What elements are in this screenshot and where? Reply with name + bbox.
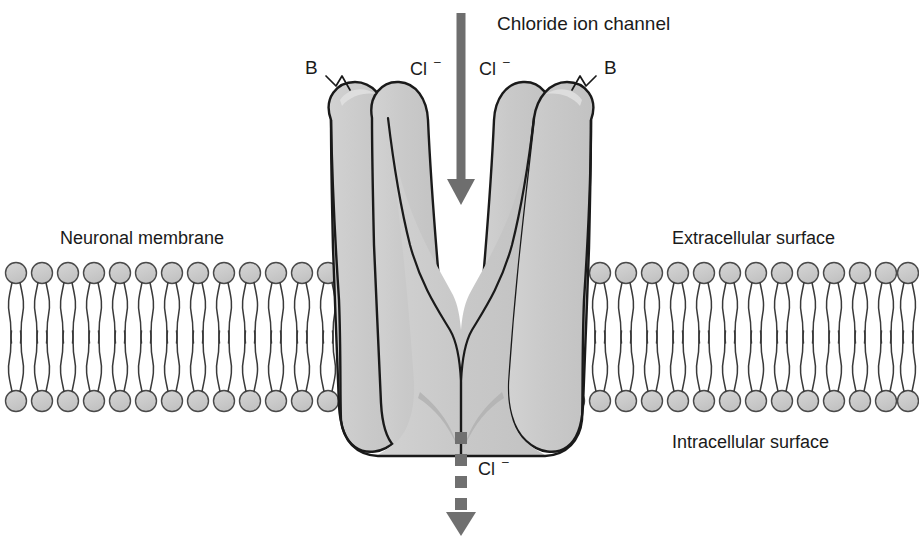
chloride-charge: – xyxy=(502,455,509,469)
membrane-left-segment xyxy=(6,263,363,412)
neuronal-membrane-label: Neuronal membrane xyxy=(60,228,224,248)
intracellular-surface-label: Intracellular surface xyxy=(672,432,829,452)
lipid-inner-leaflet-left xyxy=(6,331,363,412)
membrane-right-segment xyxy=(564,263,919,412)
chloride-label-extracellular-right: Cl – xyxy=(479,55,510,79)
channel-title-label: Chloride ion channel xyxy=(497,13,670,34)
lipid-outer-leaflet-right xyxy=(564,263,919,344)
binding-site-right-label: B xyxy=(604,57,617,78)
chloride-charge: – xyxy=(503,55,510,69)
chloride-charge: – xyxy=(434,55,441,69)
extracellular-surface-label: Extracellular surface xyxy=(672,228,835,248)
chloride-symbol: Cl xyxy=(479,59,496,79)
chloride-influx-arrow xyxy=(447,13,475,205)
binding-site-left-label: B xyxy=(305,57,318,78)
chloride-symbol: Cl xyxy=(410,59,427,79)
chloride-symbol: Cl xyxy=(478,459,495,479)
chloride-label-intracellular: Cl – xyxy=(478,455,509,479)
chloride-label-extracellular-left: Cl – xyxy=(410,55,441,79)
lipid-inner-leaflet-right xyxy=(564,331,919,412)
chloride-channel-diagram: Chloride ion channel B B Cl – Cl – Cl – … xyxy=(0,0,919,536)
diagram-canvas: Chloride ion channel B B Cl – Cl – Cl – … xyxy=(0,0,919,536)
lipid-outer-leaflet-left xyxy=(6,263,363,344)
